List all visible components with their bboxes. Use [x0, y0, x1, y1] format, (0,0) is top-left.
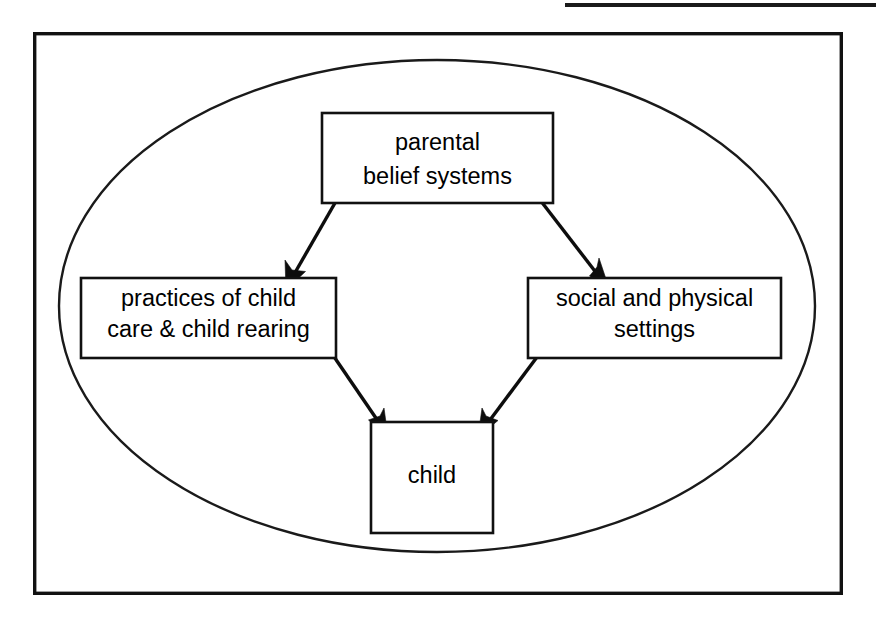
node-child[interactable]: child [371, 422, 493, 533]
arrow-beliefs-to-practices [285, 196, 339, 290]
node-label-practices-line-2: care & child rearing [107, 316, 309, 342]
node-parental-belief-systems[interactable]: parental belief systems [322, 113, 553, 203]
node-practices-of-child-care[interactable]: practices of child care & child rearing [81, 278, 336, 358]
figure-root: parental belief systems practices of chi… [0, 0, 881, 622]
node-label-parental-belief-systems-line-2: belief systems [363, 163, 512, 189]
node-label-practices-line-1: practices of child [121, 285, 296, 311]
node-social-and-physical-settings[interactable]: social and physical settings [528, 278, 781, 358]
node-label-settings-line-2: settings [614, 316, 695, 342]
diagram-canvas: parental belief systems practices of chi… [0, 0, 881, 622]
node-label-parental-belief-systems-line-1: parental [395, 129, 480, 155]
node-label-child: child [408, 462, 456, 488]
node-label-settings-line-1: social and physical [556, 285, 753, 311]
